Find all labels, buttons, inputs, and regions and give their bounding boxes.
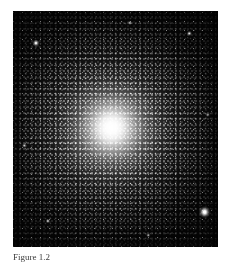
field-star-lower-left-glow (45, 218, 50, 223)
cluster-halo (13, 11, 218, 247)
field-star-upper-left-glow (32, 39, 40, 47)
star-grain-medium (13, 11, 218, 247)
panel-vignette (13, 11, 218, 247)
night-sky-background (13, 11, 218, 247)
figure-caption: Figure 1.2 (13, 252, 218, 263)
field-star-lower-left (47, 220, 48, 221)
field-star-top-mid-glow (128, 20, 133, 25)
bright-field-stars (13, 11, 218, 247)
field-star-bottom-mid-glow (146, 233, 151, 238)
field-star-bottom-mid (148, 235, 149, 236)
figure-caption-label: Figure 1.2 (13, 252, 50, 262)
field-star-top-mid (129, 22, 130, 23)
field-star-left-mid (24, 145, 25, 146)
field-star-right-mid-glow (205, 113, 210, 118)
star-grain-sparse (13, 11, 218, 247)
star-grain-dense (13, 11, 218, 247)
field-star-lower-right-glow (198, 206, 210, 218)
field-star-upper-left (35, 42, 37, 44)
field-star-lower-right (203, 210, 206, 213)
field-star-upper-right (189, 33, 191, 35)
field-star-right-mid (207, 114, 208, 115)
field-star-upper-right-glow (186, 31, 192, 37)
field-star-left-mid-glow (22, 143, 27, 148)
globular-cluster-image (13, 11, 218, 247)
cluster-core (13, 11, 218, 247)
